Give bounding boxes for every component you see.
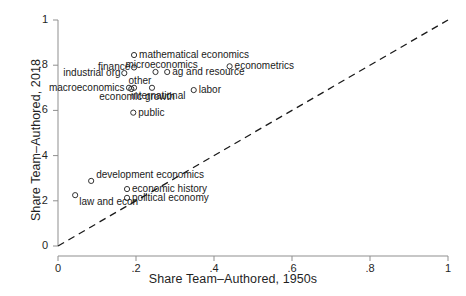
y-tick-label: 1	[22, 13, 48, 25]
data-point-marker	[131, 52, 136, 57]
y-axis-ticks	[53, 20, 58, 246]
axes	[53, 20, 448, 261]
data-point-label: labor	[199, 85, 221, 95]
y-tick-label: .8	[22, 58, 48, 70]
x-axis-ticks	[58, 256, 448, 261]
x-tick-label: .2	[121, 262, 151, 274]
data-point-label: public	[138, 108, 164, 118]
data-point-marker	[73, 193, 78, 198]
data-point-label: international	[131, 91, 185, 101]
data-point-label: other	[129, 76, 152, 86]
data-point-marker	[191, 87, 196, 92]
x-tick-label: .4	[199, 262, 229, 274]
x-tick-label: 1	[433, 262, 463, 274]
data-point-label: law and econ	[79, 197, 138, 207]
plot-canvas	[0, 0, 466, 296]
data-point-marker	[165, 69, 170, 74]
scatter-plot-figure: Share Team–Authored, 1950s Share Team–Au…	[0, 0, 466, 296]
reference-line-45deg	[58, 20, 448, 246]
y-tick-label: .4	[22, 149, 48, 161]
x-tick-label: .6	[277, 262, 307, 274]
x-axis-title: Share Team–Authored, 1950s	[0, 272, 466, 286]
y-tick-label: .2	[22, 194, 48, 206]
y-tick-label: .6	[22, 103, 48, 115]
data-point-label: development economics	[96, 170, 204, 180]
y-tick-label: 0	[22, 239, 48, 251]
y-axis-title: Share Team–Authored, 2018	[29, 20, 43, 260]
data-point-marker	[124, 186, 129, 191]
data-point-marker	[153, 69, 158, 74]
data-point-label: ag and resource	[172, 67, 244, 77]
data-point-marker	[89, 178, 94, 183]
reference-line	[58, 20, 448, 246]
data-point-marker	[131, 110, 136, 115]
data-point-label: political economy	[132, 193, 209, 203]
data-point-label: industrial org	[63, 68, 120, 78]
x-tick-label: 0	[43, 262, 73, 274]
x-tick-label: .8	[355, 262, 385, 274]
